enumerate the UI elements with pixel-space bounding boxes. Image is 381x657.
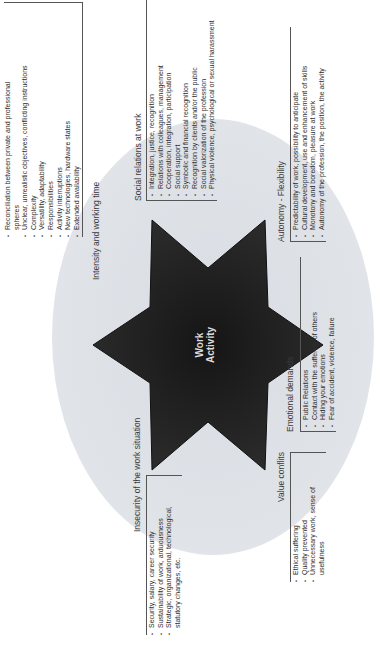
list-item: Integration, justice, recognition	[148, 0, 157, 196]
list-item: Monotony and boredom, pleasure at work	[309, 27, 318, 237]
list-item: Versatility, adaptability	[38, 7, 47, 237]
list-item: Cooperation, integration, participation	[165, 0, 174, 196]
list-item: Responsibilities	[47, 7, 56, 237]
list-item: Symbolic and financial recognition	[182, 0, 191, 196]
list-item: Contact with the suffering of others	[311, 257, 320, 427]
category-title-intensity: Intensity and working time	[91, 182, 101, 280]
center-label-line2: Activity	[205, 315, 216, 375]
emotional-demands-items-box: Public Relations Contact with the suffer…	[300, 257, 336, 432]
list-item: Predictability of work, possibility to a…	[292, 27, 301, 237]
value-conflicts-items-box: Ethical suffering Quality prevented Unne…	[290, 452, 326, 582]
category-title-emotional-demands: Emotional demands	[285, 357, 295, 432]
list-item: Reconciliation between private and profe…	[4, 80, 21, 237]
category-title-autonomy: Autonomy - Flexibility	[276, 161, 286, 242]
intensity-items-box: Reconciliation between private and profe…	[4, 2, 83, 237]
category-title-value-conflicts: Value conflits	[276, 452, 286, 502]
social-relations-items-box: Integration, justice, recognition Relati…	[146, 0, 217, 201]
autonomy-items-box: Predictability of work, possibility to a…	[290, 27, 326, 242]
list-item: Fear of accident, violence, failure	[328, 257, 337, 427]
list-item: Social valorization of the profession	[200, 0, 209, 196]
list-item: New technologies, hardware states	[64, 7, 73, 237]
list-item: Autonomy of the profession, the position…	[318, 27, 327, 237]
list-item: Quality prevented	[301, 457, 310, 582]
list-item: Physical violence, psychological or sexu…	[208, 0, 217, 196]
list-item: Security, salary, career security	[148, 480, 157, 635]
list-item: Unnecessary work, sense of usefulness	[309, 460, 326, 582]
list-item: Sustainability of work, arduousness	[157, 480, 166, 635]
center-label: Work Activity	[194, 315, 216, 375]
list-item: Public Relations	[302, 257, 311, 427]
list-item: Ethical suffering	[292, 457, 301, 582]
list-item: Unclear, unrealistic objectives, conflic…	[21, 7, 30, 237]
category-title-insecurity: Insecurity of the work situation	[132, 418, 142, 532]
list-item: Hiding your emotions	[319, 257, 328, 427]
list-item: Extended availability	[73, 7, 82, 237]
diagram-canvas: Work Activity Reconciliation between pri…	[0, 0, 381, 657]
list-item: Complexity	[30, 7, 39, 237]
center-label-line1: Work	[194, 315, 205, 375]
list-item: Cultural development, use and enhancemen…	[301, 45, 310, 237]
list-item: Social support	[174, 0, 183, 196]
list-item: Strategic, organizational, technological…	[165, 488, 182, 635]
list-item: Recognition by clients and/or the public	[191, 0, 200, 196]
insecurity-items-box: Security, salary, career security Sustai…	[146, 475, 182, 635]
list-item: Activity interruptions	[56, 7, 65, 237]
list-item: Relations with colleagues, management	[157, 0, 166, 196]
category-title-social-relations: Social relations at work	[133, 114, 143, 201]
